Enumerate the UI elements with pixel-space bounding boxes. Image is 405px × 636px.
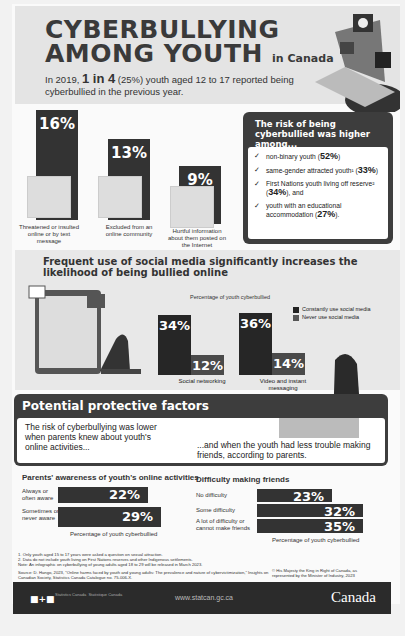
awareness-bar: 22% [58, 487, 148, 503]
risk-end: ). [335, 211, 339, 218]
risk-item: First Nations youth living off reserve² … [252, 180, 384, 197]
value: 22% [109, 487, 140, 502]
awareness-axis: Percentage of youth cyberbullied [70, 531, 157, 538]
threatened-illustration [27, 176, 71, 218]
main-title: CYBERBULLYING AMONG YOUTH in Canada [45, 18, 334, 71]
hurtful-info-illustration [170, 186, 214, 228]
risk-end: ), and [286, 189, 303, 196]
bar-social-constant: 34% [158, 315, 191, 375]
protective-left-text: The risk of cyberbullying was lower when… [25, 422, 175, 452]
source: Source: D. Hango, 2023, "Online harms fa… [18, 570, 278, 580]
risk-value: 52% [320, 151, 338, 161]
value: 29% [122, 509, 153, 524]
statcan-en: Statistics Canada [55, 592, 86, 597]
friends-bar: 23% [257, 489, 332, 502]
friends-title: Difficulty making friends [196, 475, 289, 484]
risk-item: non-binary youth (52%) [252, 152, 384, 161]
legend-never: Never use social media [293, 313, 370, 321]
awareness-label: Sometimes or never aware [22, 508, 60, 522]
risk-value: 33% [358, 165, 376, 175]
intro-prefix: In 2019, [45, 74, 82, 85]
legend-swatch [293, 315, 299, 321]
header-banner: CYBERBULLYING AMONG YOUTH in Canada In 2… [15, 6, 400, 104]
website-link[interactable]: www.statcan.gc.ca [175, 594, 233, 601]
copyright: © His Majesty the King in Right of Canad… [272, 568, 372, 578]
awareness-label: Always or often aware [22, 488, 60, 502]
friends-label: Some difficulty [196, 507, 235, 514]
label-hurtful-info: Hurtful information about them posted on… [166, 228, 228, 249]
title-line2: AMONG YOUTH [45, 39, 263, 68]
value: 13% [111, 144, 147, 162]
legend-constant: Constantly use social media [293, 305, 370, 313]
protective-body: The risk of cyberbullying was lower when… [17, 418, 385, 463]
legend: Constantly use social media Never use so… [293, 305, 370, 321]
risk-list: non-binary youth (52%) same-gender attra… [248, 147, 388, 239]
friends-label: A lot of difficulty or cannot make frien… [196, 518, 254, 532]
label-excluded: Excluded from an online community [98, 224, 160, 238]
footer: ■+■ Statistics Canada Statistique Canada… [13, 582, 391, 614]
awareness-title: Parents' awareness of youth's online act… [22, 473, 199, 482]
value: 16% [39, 115, 75, 133]
axis-title: Percentage of youth cyberbullied [190, 294, 270, 300]
label-threatened: Threatened or insulted online or by text… [18, 224, 80, 245]
risk-panel: The risk of being cyberbullied was highe… [243, 112, 393, 244]
risk-end: ) [376, 167, 378, 174]
friends-axis: Percentage of youth cyberbullied [272, 537, 359, 544]
tablet-illustration [21, 284, 141, 376]
friends-bar: 35% [257, 519, 363, 533]
bar-social-never: 12% [191, 355, 224, 375]
risk-item: same-gender attracted youth¹ (33%) [252, 166, 384, 175]
risk-item: youth with an educational accommodation … [252, 202, 384, 219]
social-title: Frequent use of social media significant… [43, 256, 373, 278]
excluded-illustration [98, 176, 142, 218]
protective-right-text: ...and when the youth had less trouble m… [197, 440, 377, 460]
awareness-bar: 29% [58, 507, 161, 527]
label-social-networking: Social networking [167, 378, 237, 385]
friends-bar: 32% [257, 504, 363, 517]
risk-title: The risk of being cyberbullied was highe… [243, 112, 393, 149]
risk-text: non-binary youth ( [266, 153, 320, 160]
protective-factors-panel: Potential protective factors The risk of… [14, 394, 388, 466]
bar-video-never: 14% [272, 353, 305, 375]
value: 23% [293, 489, 324, 504]
statcan-signature: Statistics Canada Statistique Canada [55, 592, 122, 597]
friends-label: No difficulty [196, 492, 227, 499]
canada-flag-icon: ■+■ [30, 594, 55, 604]
risk-value: 34% [268, 187, 286, 197]
desk-illustration [279, 418, 359, 438]
statcan-fr: Statistique Canada [88, 592, 122, 597]
risk-text: same-gender attracted youth¹ ( [266, 167, 358, 174]
risk-end: ) [338, 153, 340, 160]
social-media-section: Frequent use of social media significant… [15, 250, 400, 390]
intro-text: In 2019, 1 in 4 (25%) youth aged 12 to 1… [45, 73, 305, 98]
value: 35% [324, 519, 355, 534]
intro-highlight: 1 in 4 [82, 71, 115, 86]
legend-label: Constantly use social media [302, 306, 370, 312]
bar-video-constant: 36% [239, 313, 272, 375]
value: 32% [324, 504, 355, 519]
legend-swatch [293, 307, 299, 313]
cyberbullying-types-chart: 16% Threatened or insulted online or by … [16, 106, 226, 246]
label-video-messaging: Video and instant messaging [248, 378, 318, 392]
note: Note: An infographic on cyberbullying of… [18, 562, 278, 567]
canada-wordmark: Canada [331, 589, 376, 606]
risk-value: 27% [317, 209, 335, 219]
legend-label: Never use social media [302, 314, 359, 320]
protective-title: Potential protective factors [22, 399, 209, 413]
laptop-with-angry-face-icon [305, 12, 400, 112]
footnotes: 1. Only youth aged 15 to 17 years were a… [18, 552, 278, 580]
